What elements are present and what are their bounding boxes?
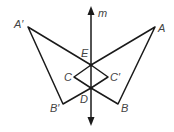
label-d: D (80, 93, 88, 105)
point-e-dot (89, 63, 92, 66)
label-b-prime: B′ (50, 102, 60, 114)
arrow-up-icon (88, 6, 95, 15)
label-a-prime: A′ (13, 18, 24, 30)
label-m: m (98, 7, 107, 19)
label-a: A (157, 22, 165, 34)
label-b: B (121, 102, 128, 114)
reflection-diagram: m A′ A E C C′ D B′ B (0, 0, 174, 132)
label-c: C (64, 71, 72, 83)
arrow-down-icon (88, 117, 95, 126)
figure-abc-prime (28, 27, 108, 104)
point-d-dot (89, 86, 92, 89)
label-c-prime: C′ (110, 71, 121, 83)
label-e: E (81, 47, 89, 59)
